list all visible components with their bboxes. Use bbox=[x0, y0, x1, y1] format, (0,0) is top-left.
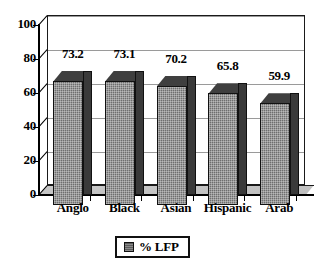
bar-value-label: 59.9 bbox=[250, 69, 309, 82]
bar-value-label: 73.2 bbox=[43, 47, 102, 60]
legend-label-lfp: % LFP bbox=[139, 240, 179, 253]
bar-anglo bbox=[53, 71, 92, 205]
bar-front-face bbox=[53, 81, 83, 205]
y-axis-line bbox=[38, 24, 40, 194]
y-axis-tick-label: 40 bbox=[8, 121, 36, 131]
bar-black bbox=[105, 71, 144, 205]
legend-swatch-lfp bbox=[124, 242, 134, 252]
bar-value-label: 65.8 bbox=[198, 59, 257, 72]
bar-side-face bbox=[83, 71, 92, 195]
y-axis-tick-label: 80 bbox=[8, 53, 36, 63]
bar-front-face bbox=[208, 93, 238, 205]
y-axis-tick-label: 0 bbox=[8, 189, 36, 199]
bar-side-face bbox=[135, 71, 144, 195]
chart-legend: % LFP bbox=[115, 236, 190, 258]
bar-side-face bbox=[290, 93, 299, 195]
bar-asian bbox=[157, 76, 196, 205]
bar-hispanic bbox=[208, 83, 247, 205]
y-axis-tick-label: 60 bbox=[8, 87, 36, 97]
y-axis-tick-label: 20 bbox=[8, 155, 36, 165]
y-axis-tick-labels: 020406080100 bbox=[8, 0, 36, 270]
bar-arab bbox=[260, 93, 299, 205]
bar-value-label: 73.1 bbox=[95, 47, 154, 60]
bar-chart: 020406080100 73.273.170.265.859.9 AngloB… bbox=[0, 0, 324, 270]
gridline bbox=[48, 16, 304, 17]
bar-side-face bbox=[238, 83, 247, 195]
bar-front-face bbox=[105, 81, 135, 205]
bar-side-face bbox=[187, 76, 196, 195]
category-label-arab: Arab bbox=[234, 201, 324, 215]
bar-value-label: 70.2 bbox=[147, 52, 206, 65]
y-axis-tick-label: 100 bbox=[8, 19, 36, 29]
bar-front-face bbox=[260, 103, 290, 205]
bar-front-face bbox=[157, 86, 187, 205]
